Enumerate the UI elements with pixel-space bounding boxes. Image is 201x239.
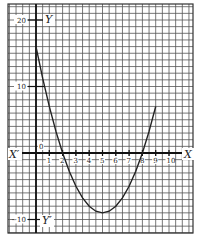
x-tick-label: 7: [127, 157, 131, 165]
x-tick-label: 3: [73, 157, 77, 165]
x-tick-label: 9: [153, 157, 157, 165]
x-tick-label: 10: [167, 157, 176, 165]
origin-label: 0: [39, 143, 43, 151]
y-tick-label: −10: [11, 216, 26, 224]
x-neg-axis-label: X′: [8, 148, 20, 161]
axes: [8, 4, 193, 233]
x-tick-label: 4: [87, 157, 92, 165]
x-tick-label: 1: [47, 157, 51, 165]
parabola-graph: 123456789102010−10 Y Y′ X X′ 0: [0, 0, 201, 239]
y-tick-label: 10: [17, 83, 26, 91]
x-tick-label: 6: [113, 157, 118, 165]
y-tick-label: 20: [17, 17, 26, 25]
x-tick-label: 5: [100, 157, 104, 165]
y-neg-axis-label: Y′: [42, 214, 52, 227]
x-axis-label: X: [183, 148, 193, 161]
